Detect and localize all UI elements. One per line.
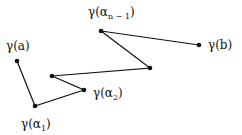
label-gamma-alpha-n-minus-1: γ(αn − 1) <box>88 5 135 21</box>
point-gamma-a <box>15 59 20 64</box>
label-gamma-alpha2: γ(α2) <box>93 86 123 102</box>
polygonal-path-diagram: γ(a) γ(α1) γ(α2) γ(αn − 1) γ(b) <box>0 0 242 135</box>
label-gamma-b: γ(b) <box>208 38 232 52</box>
label-gamma-a: γ(a) <box>6 39 30 53</box>
point-gamma-alpha-n-minus-1 <box>99 29 104 34</box>
label-gamma-alpha1: γ(α1) <box>21 117 51 133</box>
point-intermediate-3 <box>50 74 55 79</box>
point-gamma-alpha1 <box>33 104 38 109</box>
point-gamma-b <box>197 43 202 48</box>
point-intermediate-4 <box>148 66 153 71</box>
point-gamma-alpha2 <box>82 88 87 93</box>
